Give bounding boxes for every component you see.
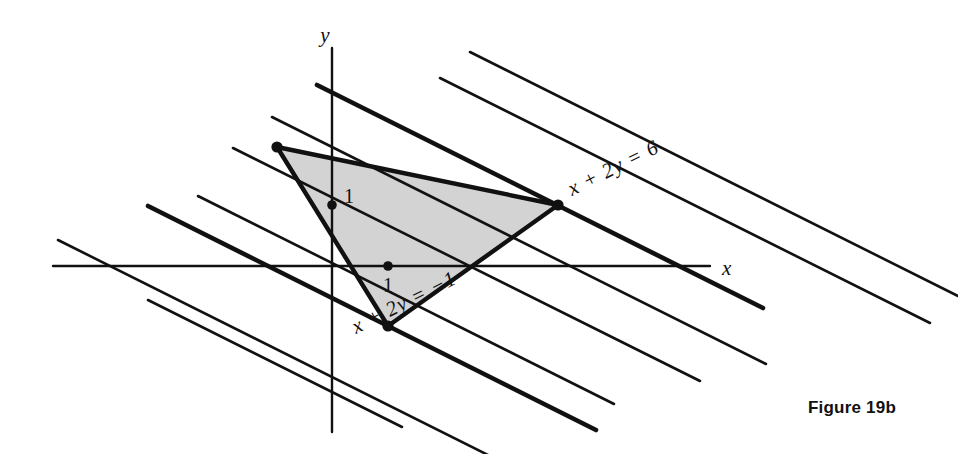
parallel-objective-lines (58, 52, 958, 454)
equation-label-x-plus-2y-equals-6: x + 2y = 6 (563, 135, 663, 201)
y-axis-unit-label: 1 (344, 185, 354, 207)
vertex-dot-0 (271, 141, 282, 152)
tick-dot-y-unit (327, 200, 337, 210)
figure-caption: Figure 19b (808, 398, 896, 418)
objective-line-5 (58, 240, 540, 454)
figure-19b-container: x y 1 1 x + 2y = 6 x + 2y = −1 Figure 19… (0, 0, 958, 454)
x-axis-label: x (721, 256, 732, 280)
tick-dot-x-unit (383, 261, 393, 271)
x-axis-unit-label: 1 (383, 274, 393, 296)
objective-line-0 (470, 52, 958, 296)
vertex-dot-1 (552, 199, 563, 210)
y-axis-label: y (318, 23, 330, 47)
linear-programming-figure: x y 1 1 x + 2y = 6 x + 2y = −1 (0, 0, 958, 454)
objective-line-3 (233, 148, 700, 381)
